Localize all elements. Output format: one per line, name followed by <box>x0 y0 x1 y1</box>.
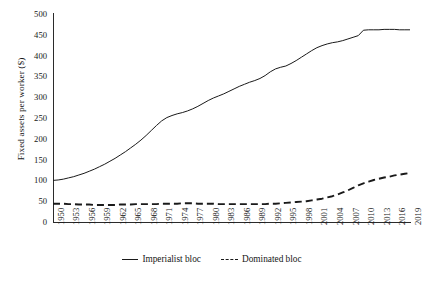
x-tick-1977: 1977 <box>196 208 205 225</box>
x-tick-1992: 1992 <box>274 208 283 225</box>
x-tick-2019: 2019 <box>414 208 423 225</box>
x-axis-tick-labels: 1950195319561959196219651968197119741977… <box>0 0 424 282</box>
x-tick-2016: 2016 <box>398 208 407 225</box>
x-tick-1959: 1959 <box>103 208 112 225</box>
x-tick-2007: 2007 <box>352 208 361 225</box>
x-tick-1968: 1968 <box>150 208 159 225</box>
x-tick-1980: 1980 <box>212 208 221 225</box>
chart-figure: Fixed assets per worker ($) 050100150200… <box>0 0 424 282</box>
x-tick-1956: 1956 <box>88 208 97 225</box>
legend-label: Dominated bloc <box>242 254 302 264</box>
legend-item-imperialist-bloc: Imperialist bloc <box>122 254 201 264</box>
x-tick-1989: 1989 <box>258 208 267 225</box>
x-tick-1974: 1974 <box>181 208 190 225</box>
x-tick-2001: 2001 <box>320 208 329 225</box>
x-tick-1965: 1965 <box>134 208 143 225</box>
x-tick-1950: 1950 <box>57 208 66 225</box>
x-tick-1953: 1953 <box>72 208 81 225</box>
x-tick-2004: 2004 <box>336 208 345 225</box>
x-tick-2010: 2010 <box>367 208 376 225</box>
legend-item-dominated-bloc: Dominated bloc <box>221 254 302 264</box>
x-tick-1998: 1998 <box>305 208 314 225</box>
x-tick-1983: 1983 <box>227 208 236 225</box>
x-tick-1971: 1971 <box>165 208 174 225</box>
x-tick-1995: 1995 <box>289 208 298 225</box>
chart-legend: Imperialist bloc Dominated bloc <box>0 254 424 264</box>
x-tick-2013: 2013 <box>383 208 392 225</box>
x-tick-1962: 1962 <box>119 208 128 225</box>
legend-solid-line-icon <box>122 259 138 260</box>
x-tick-1986: 1986 <box>243 208 252 225</box>
legend-dashed-line-icon <box>221 259 238 260</box>
legend-label: Imperialist bloc <box>142 254 201 264</box>
